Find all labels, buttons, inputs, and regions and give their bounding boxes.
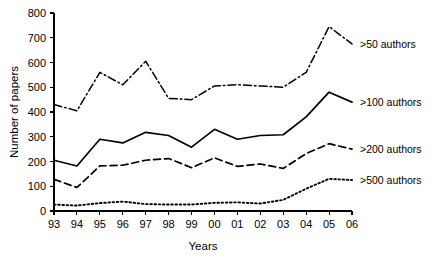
x-axis-tick-label: 93 <box>48 218 60 230</box>
series-line-1 <box>54 27 352 111</box>
y-axis-tick-label: 700 <box>28 32 46 44</box>
y-axis-tick-label: 0 <box>40 205 46 217</box>
y-axis-title: Number of papers <box>8 66 20 158</box>
x-axis-tick-label: 05 <box>323 218 335 230</box>
y-axis-tick-label: 200 <box>28 156 46 168</box>
series-label-2: >100 authors <box>360 96 422 108</box>
series-line-4 <box>54 179 352 206</box>
y-axis-tick-label: 500 <box>28 81 46 93</box>
x-axis-tick-label: 96 <box>117 218 129 230</box>
x-axis-tick-label: 06 <box>346 218 358 230</box>
x-axis-tick-label: 02 <box>254 218 266 230</box>
y-axis-tick-label: 800 <box>28 7 46 19</box>
x-axis-tick-label: 95 <box>94 218 106 230</box>
x-axis-tick-label: 04 <box>300 218 312 230</box>
series-line-2 <box>54 92 352 166</box>
line-chart: 0100200300400500600700800939495969798990… <box>0 0 442 259</box>
x-axis-tick-label: 01 <box>231 218 243 230</box>
x-axis-tick-label: 03 <box>277 218 289 230</box>
y-axis-tick-label: 600 <box>28 57 46 69</box>
chart-figure: 0100200300400500600700800939495969798990… <box>0 0 442 259</box>
series-line-3 <box>54 144 352 188</box>
y-axis-tick-label: 100 <box>28 180 46 192</box>
x-axis-title: Years <box>189 240 218 252</box>
x-axis-tick-label: 98 <box>162 218 174 230</box>
x-axis-tick-label: 94 <box>71 218 83 230</box>
series-label-4: >500 authors <box>360 174 422 186</box>
series-label-1: >50 authors <box>360 38 416 50</box>
series-label-3: >200 authors <box>360 143 422 155</box>
y-axis-tick-label: 400 <box>28 106 46 118</box>
x-axis-tick-label: 99 <box>185 218 197 230</box>
x-axis-tick-label: 97 <box>140 218 152 230</box>
y-axis-tick-label: 300 <box>28 131 46 143</box>
x-axis-tick-label: 00 <box>208 218 220 230</box>
